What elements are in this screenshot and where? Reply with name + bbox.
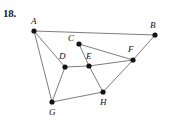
vertex-label-b: B <box>150 21 156 30</box>
graph-edge-g-h <box>52 92 103 102</box>
graph-vertex-f <box>130 57 135 62</box>
vertex-label-c: C <box>68 34 74 43</box>
vertex-layer <box>31 28 157 104</box>
graph-vertex-b <box>152 32 157 37</box>
graph-edge-d-g <box>52 67 65 102</box>
graph-edge-a-b <box>34 31 155 35</box>
graph-vertex-e <box>86 63 91 68</box>
vertex-label-a: A <box>31 17 37 26</box>
graph-vertex-h <box>100 89 105 94</box>
graph-edge-f-h <box>103 60 133 92</box>
graph-vertex-a <box>31 28 36 33</box>
graph-vertex-d <box>62 64 67 69</box>
geometry-figure: 18. ABCDEFGH <box>0 0 169 124</box>
vertex-label-h: H <box>100 98 107 107</box>
graph-edge-e-h <box>89 66 103 92</box>
graph-edge-d-e <box>65 66 89 67</box>
edge-layer <box>34 31 155 102</box>
graph-edge-e-f <box>89 60 133 66</box>
vertex-label-d: D <box>59 52 66 61</box>
graph-vertex-g <box>49 99 54 104</box>
graph-vertex-c <box>76 41 81 46</box>
vertex-label-e: E <box>86 52 92 61</box>
vertex-label-g: G <box>49 108 56 117</box>
graph-edge-b-f <box>133 35 155 60</box>
graph-drawing <box>0 0 169 124</box>
vertex-label-f: F <box>128 45 134 54</box>
